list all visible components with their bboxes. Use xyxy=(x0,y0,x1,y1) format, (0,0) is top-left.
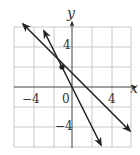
tick-y-neg4: −4 xyxy=(55,119,73,133)
tick-y-4: 4 xyxy=(63,38,71,52)
tick-x-4: 4 xyxy=(108,92,116,106)
x-axis-label: x xyxy=(130,80,138,96)
intersection-point xyxy=(59,64,64,69)
y-axis-label: y xyxy=(67,5,75,21)
tick-x-0: 0 xyxy=(62,92,70,106)
line-y-neg-x-plus-1 xyxy=(23,24,130,131)
tick-x-neg4: −4 xyxy=(22,92,40,106)
